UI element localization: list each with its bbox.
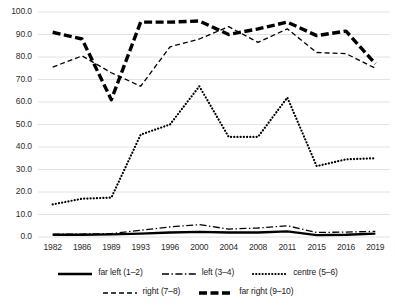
y-axis-tick-label: 30.0 (0, 164, 32, 174)
legend-label: centre (5–6) (293, 267, 338, 277)
legend-label: far left (1–2) (98, 267, 142, 277)
series-line-2 (53, 86, 376, 204)
legend-line-swatch (57, 268, 93, 280)
series-layer (53, 21, 376, 235)
legend-line-swatch (161, 268, 197, 280)
legend-swatch-4 (198, 285, 234, 297)
y-axis-tick-label: 0.0 (0, 231, 32, 241)
x-axis-tick-label: 1986 (66, 242, 98, 252)
legend-line-swatch (102, 287, 138, 299)
legend-line-swatch (252, 268, 288, 280)
x-axis-tick-label: 2000 (183, 242, 215, 252)
legend-row: far left (1–2)left (3–4)centre (5–6) (0, 262, 395, 281)
y-axis-tick-label: 10.0 (0, 209, 32, 219)
x-axis-tick-label: 1996 (154, 242, 186, 252)
series-line-0 (53, 231, 376, 235)
x-axis-tick-label: 1982 (37, 242, 69, 252)
x-axis-tick-label: 2011 (271, 242, 303, 252)
legend-label: far right (9–10) (239, 286, 293, 296)
legend-line-swatch (198, 287, 234, 299)
legend-label: right (7–8) (143, 286, 181, 296)
x-axis-tick-label: 1993 (125, 242, 157, 252)
y-axis-tick-label: 80.0 (0, 51, 32, 61)
y-axis-tick-label: 100.0 (0, 6, 32, 16)
chart-legend: far left (1–2)left (3–4)centre (5–6) rig… (0, 262, 395, 300)
x-axis-tick-label: 2008 (242, 242, 274, 252)
x-axis-tick-label: 2016 (330, 242, 362, 252)
x-axis-tick-label: 2019 (359, 242, 391, 252)
legend-swatch-2 (252, 266, 288, 278)
y-axis-tick-label: 60.0 (0, 96, 32, 106)
legend-swatch-0 (57, 266, 93, 278)
y-axis-tick-label: 90.0 (0, 29, 32, 39)
line-chart-plot (0, 0, 395, 307)
y-axis-tick-label: 20.0 (0, 186, 32, 196)
legend-swatch-3 (102, 285, 138, 297)
legend-item-4[interactable]: far right (9–10) (198, 285, 293, 297)
y-axis-tick-label: 50.0 (0, 119, 32, 129)
y-axis-tick-label: 70.0 (0, 74, 32, 84)
legend-item-2[interactable]: centre (5–6) (252, 266, 338, 278)
legend-label: left (3–4) (202, 267, 235, 277)
x-axis-tick-label: 2015 (301, 242, 333, 252)
x-axis-tick-label: 2004 (213, 242, 245, 252)
y-axis-tick-label: 40.0 (0, 141, 32, 151)
legend-swatch-1 (161, 266, 197, 278)
legend-item-1[interactable]: left (3–4) (161, 266, 235, 278)
legend-row: right (7–8)far right (9–10) (0, 281, 395, 300)
legend-item-0[interactable]: far left (1–2) (57, 266, 142, 278)
legend-item-3[interactable]: right (7–8) (102, 285, 181, 297)
chart-container: 100.090.080.070.060.050.040.030.020.010.… (0, 0, 395, 307)
x-axis-tick-label: 1989 (95, 242, 127, 252)
gridlines (38, 12, 390, 237)
